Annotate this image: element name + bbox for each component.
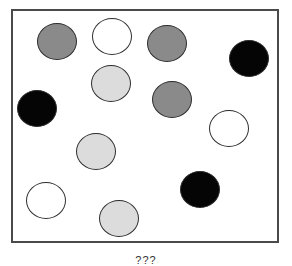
circle-black bbox=[229, 40, 269, 77]
circle-white bbox=[92, 18, 132, 55]
circle-dark-gray bbox=[147, 25, 187, 62]
circle-black bbox=[180, 171, 220, 208]
circle-light-gray bbox=[76, 133, 116, 170]
circle-dark-gray bbox=[37, 23, 77, 60]
circle-black bbox=[17, 90, 57, 127]
circle-dark-gray bbox=[152, 81, 192, 118]
circle-light-gray bbox=[99, 200, 139, 237]
figure-caption: ??? bbox=[0, 254, 292, 266]
circle-white bbox=[209, 110, 249, 147]
circle-white bbox=[26, 182, 66, 219]
circle-light-gray bbox=[91, 65, 131, 102]
